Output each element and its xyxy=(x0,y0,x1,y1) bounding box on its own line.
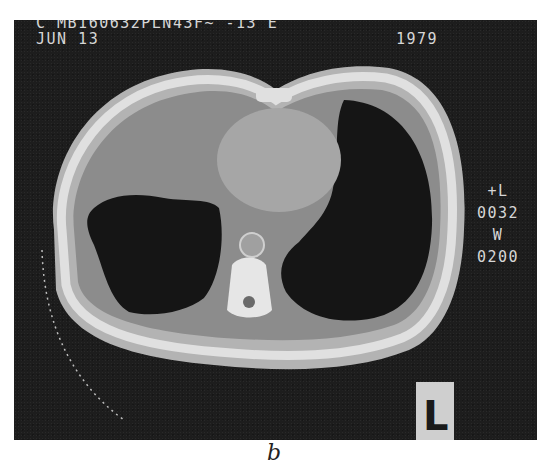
ct-scan-figure: C MB160632PLN43F~ -13 E JUN 13 1979 +L 0… xyxy=(14,20,537,440)
aorta xyxy=(240,233,264,257)
vertebra xyxy=(227,258,272,318)
orientation-marker: L xyxy=(416,382,454,440)
level-label: +L xyxy=(458,180,537,202)
orientation-letter: L xyxy=(423,396,449,436)
scan-header-id: C MB160632PLN43F~ -13 E xyxy=(36,20,278,30)
spinal-canal xyxy=(243,296,255,308)
width-value: 0200 xyxy=(458,246,537,268)
figure-caption: b xyxy=(0,440,548,465)
heart xyxy=(217,108,341,212)
sternum xyxy=(256,88,292,102)
scan-date: JUN 13 xyxy=(36,32,99,46)
scan-year: 1979 xyxy=(396,32,438,46)
window-settings: +L 0032 W 0200 xyxy=(458,180,537,268)
level-value: 0032 xyxy=(458,202,537,224)
width-label: W xyxy=(458,224,537,246)
